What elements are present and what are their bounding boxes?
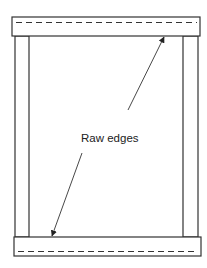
raw-edges-label: Raw edges	[79, 131, 141, 145]
left-post	[15, 36, 29, 237]
top-bar	[12, 17, 200, 36]
bottom-bar	[14, 237, 201, 256]
right-post	[183, 36, 198, 237]
arrow-to-top-edge	[128, 37, 164, 110]
arrow-to-bottom-edge	[52, 153, 82, 236]
